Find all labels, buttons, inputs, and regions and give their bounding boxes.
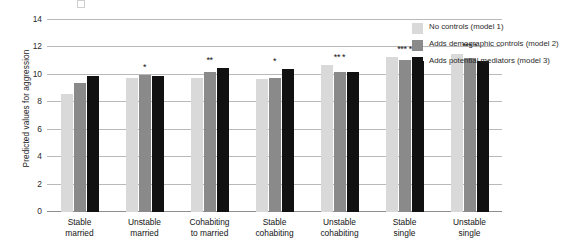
bar [477,61,489,212]
legend-item-label: No controls (model 1) [429,22,504,32]
x-axis-category-label: Unstablemarried [112,217,177,238]
significance-marker: ** [191,56,229,65]
x-axis-category-label: Unstablesingle [437,217,502,238]
bar [321,65,333,212]
legend-item: Adds demographic controls (model 2) [412,39,564,51]
y-axis-tick-label: 6 [37,124,42,134]
y-axis-tick-label: 14 [33,14,42,24]
x-axis-category-line: single [372,228,437,239]
x-axis-category-line: Stable [372,217,437,228]
bar [386,57,398,212]
bar [347,72,359,212]
legend-color-swatch [412,57,423,68]
x-axis-category-line: single [437,228,502,239]
x-axis-category-line: married [112,228,177,239]
bar [399,60,411,212]
bar-group: * [256,20,294,212]
bar [152,76,164,212]
significance-marker: ** * [321,53,359,62]
bar [87,76,99,212]
bar-group: * [126,20,164,212]
legend-item: Adds potential mediators (model 3) [412,56,564,68]
bar-group: ** * [321,20,359,212]
x-axis-category-line: Stable [47,217,112,228]
bar [204,72,216,212]
x-axis-category-line: Unstable [112,217,177,228]
significance-marker: * [256,57,294,66]
bar [256,79,268,212]
bar-group: ** [191,20,229,212]
legend-color-swatch [412,23,423,34]
y-axis-tick-label: 2 [37,179,42,189]
chart-legend: No controls (model 1)Adds demographic co… [412,22,564,73]
y-axis-title: Predicted values for aggression [22,29,31,189]
bar [412,61,424,212]
x-axis-category-label: Unstablecohabiting [307,217,372,238]
x-axis-category-line: to married [177,228,242,239]
bar [334,72,346,212]
x-axis-category-line: Stable [242,217,307,228]
x-axis-category-label: Stablecohabiting [242,217,307,238]
bar [282,69,294,212]
aggression-bar-chart: Predicted values for aggression 02468101… [0,0,567,251]
significance-marker: * [126,63,164,72]
legend-item-label: Adds potential mediators (model 3) [429,56,550,66]
x-axis-category-label: Stablemarried [47,217,112,238]
x-axis-category-line: Unstable [437,217,502,228]
x-axis-category-line: cohabiting [307,228,372,239]
y-axis-tick-label: 4 [37,151,42,161]
y-axis-tick-label: 0 [37,206,42,216]
bar [464,58,476,212]
x-axis-category-line: Unstable [307,217,372,228]
y-axis-tick-label: 10 [33,69,42,79]
legend-item: No controls (model 1) [412,22,564,34]
legend-color-swatch [412,40,423,51]
bar [451,54,463,212]
bar [61,94,73,212]
y-axis-tick-label: 12 [33,41,42,51]
page-artifact-mark [77,0,85,8]
bar [74,83,86,212]
y-axis-tick-label: 8 [37,96,42,106]
bar [139,75,151,212]
bar [269,78,281,212]
x-axis-category-line: Cohabiting [177,217,242,228]
bar [217,68,229,212]
x-axis-category-line: cohabiting [242,228,307,239]
x-axis-category-line: married [47,228,112,239]
x-axis-category-label: Stablesingle [372,217,437,238]
x-axis-category-label: Cohabitingto married [177,217,242,238]
legend-item-label: Adds demographic controls (model 2) [429,39,559,49]
bar [126,78,138,212]
bar-group [61,20,99,212]
bar [191,78,203,212]
